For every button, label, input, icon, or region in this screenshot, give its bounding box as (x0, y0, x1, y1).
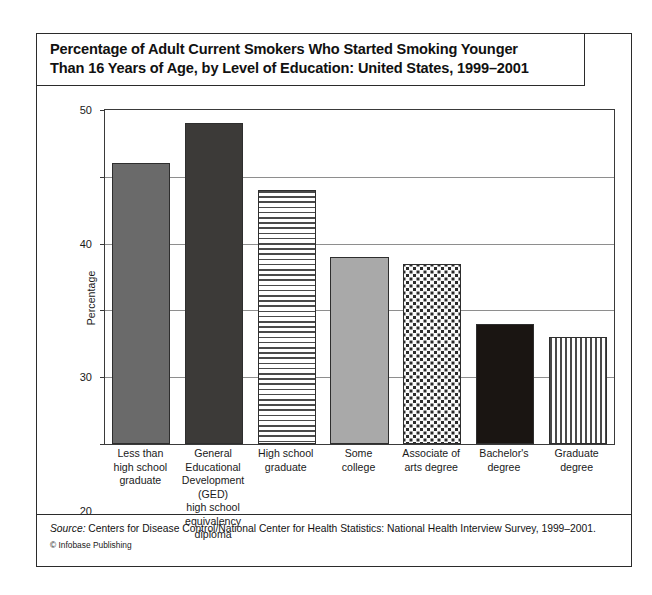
copyright-note: © Infobase Publishing (50, 540, 619, 550)
y-tick-label: 30 (80, 371, 92, 383)
title-line-1: Percentage of Adult Current Smokers Who … (50, 41, 518, 57)
category-label-line: Some (345, 447, 373, 459)
category-label-line: Less than (117, 447, 163, 459)
category-label-line: High school (258, 447, 313, 459)
chart-area: Percentage 01020304050 Less thanhigh sch… (37, 87, 631, 517)
title-line-2: Than 16 Years of Age, by Level of Educat… (50, 60, 529, 76)
category-label-line: degree (487, 461, 520, 473)
y-axis-title: Percentage (85, 238, 97, 358)
category-label-line: college (342, 461, 376, 473)
category-label-line: Educational (185, 461, 240, 473)
figure-frame: Percentage of Adult Current Smokers Who … (36, 33, 632, 567)
bar (112, 163, 170, 444)
category-label: Somecollege (322, 447, 395, 474)
category-label-line: Associate of (402, 447, 460, 459)
category-label-line: high school (114, 461, 168, 473)
bar (330, 257, 388, 444)
bars-group (105, 110, 614, 444)
source-label: Source: (50, 523, 86, 534)
bar (403, 264, 461, 444)
category-label: High schoolgraduate (249, 447, 322, 474)
bar (549, 337, 607, 444)
category-label: Bachelor'sdegree (468, 447, 541, 474)
figure-footer: Source: Centers for Disease Control/Nati… (37, 514, 631, 566)
bar (185, 123, 243, 444)
category-label: Associate ofarts degree (395, 447, 468, 474)
y-tick-label: 50 (80, 104, 92, 116)
bar (258, 190, 316, 444)
y-tick-mark: 0 (100, 444, 105, 445)
category-label-line: high school (186, 501, 240, 513)
category-label-line: graduate (119, 474, 161, 486)
chart-title-box: Percentage of Adult Current Smokers Who … (36, 33, 585, 86)
source-text: Centers for Disease Control/National Cen… (86, 523, 596, 534)
category-label-line: Bachelor's (479, 447, 528, 459)
category-label: Graduatedegree (540, 447, 613, 474)
category-label: Less thanhigh schoolgraduate (104, 447, 177, 488)
y-tick-label: 40 (80, 238, 92, 250)
page-title: Percentage of Adult Current Smokers Who … (50, 40, 572, 79)
source-note: Source: Centers for Disease Control/Nati… (50, 523, 619, 534)
category-label-line: graduate (265, 461, 307, 473)
plot-area: 01020304050 (104, 109, 615, 445)
category-label-line: arts degree (404, 461, 458, 473)
bar (476, 324, 534, 444)
category-label-line: degree (560, 461, 593, 473)
category-label-line: (GED) (198, 488, 228, 500)
category-label-line: General (194, 447, 232, 459)
category-label-line: Graduate (555, 447, 599, 459)
category-label-line: Development (182, 474, 244, 486)
